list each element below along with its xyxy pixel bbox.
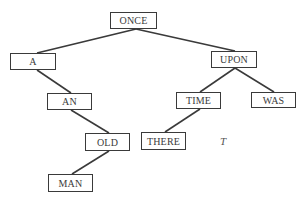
node-upon: UPON (211, 51, 257, 68)
node-once: ONCE (110, 12, 157, 29)
tree-label: T (220, 135, 226, 147)
node-old: OLD (85, 133, 130, 151)
edge-upon-time (200, 68, 235, 92)
node-there: THERE (141, 132, 186, 150)
edge-time-there (165, 109, 200, 132)
node-an: AN (47, 93, 92, 110)
edge-old-man (72, 151, 109, 174)
node-man: MAN (48, 174, 93, 192)
edge-upon-was (235, 68, 274, 92)
edge-once-a (37, 29, 136, 53)
node-was: WAS (251, 92, 296, 108)
node-time: TIME (176, 92, 221, 109)
edge-once-upon (136, 29, 235, 51)
node-a: A (10, 53, 56, 70)
edge-a-an (37, 70, 71, 93)
edge-an-old (71, 110, 109, 133)
